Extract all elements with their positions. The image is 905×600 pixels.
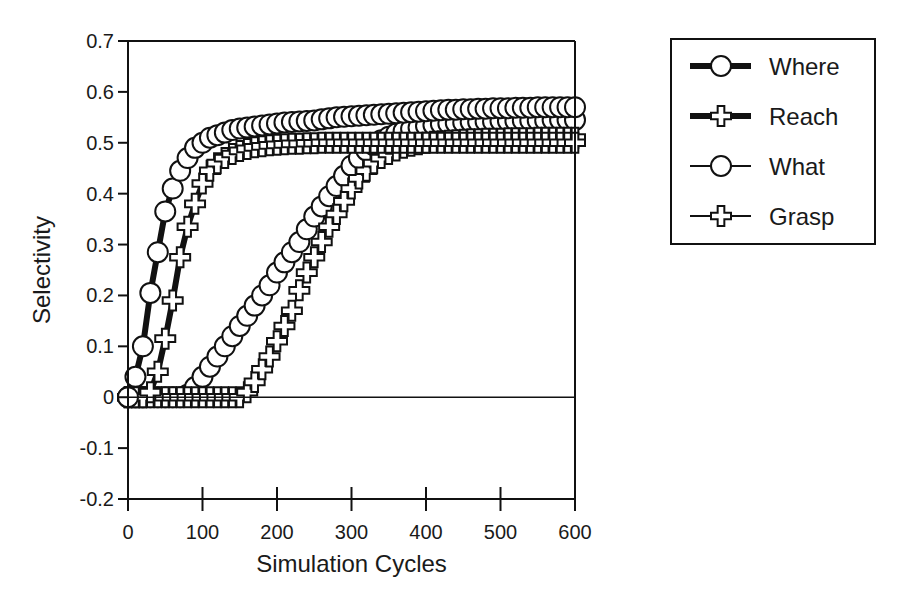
y-tick-label: 0.6 <box>86 81 114 103</box>
x-tick-label: 400 <box>409 521 442 543</box>
legend: WhereReachWhatGrasp <box>671 39 875 244</box>
legend-label-reach: Reach <box>769 103 838 130</box>
y-tick-label: 0.4 <box>86 183 114 205</box>
y-tick-label: 0 <box>103 386 114 408</box>
x-tick-label: 500 <box>484 521 517 543</box>
data-point-where <box>140 283 160 303</box>
x-tick-label: 600 <box>558 521 591 543</box>
y-tick-label: 0.1 <box>86 335 114 357</box>
legend-marker-what <box>711 156 731 176</box>
data-point-where <box>133 336 153 356</box>
legend-label-where: Where <box>769 53 840 80</box>
data-point-reach <box>163 291 183 311</box>
legend-marker-where <box>711 56 731 76</box>
data-point-reach <box>155 329 175 349</box>
x-tick-label: 0 <box>122 521 133 543</box>
data-point-where <box>148 242 168 262</box>
y-axis-title: Selectivity <box>28 216 55 324</box>
x-tick-label: 200 <box>260 521 293 543</box>
x-axis-title: Simulation Cycles <box>256 550 447 577</box>
data-point-where <box>155 201 175 221</box>
y-tick-label: 0.5 <box>86 132 114 154</box>
x-tick-label: 100 <box>186 521 219 543</box>
y-tick-label: 0.7 <box>86 30 114 52</box>
y-tick-label: -0.1 <box>80 437 114 459</box>
y-ticks: -0.2-0.100.10.20.30.40.50.60.7 <box>80 30 128 510</box>
data-point-reach <box>185 194 205 214</box>
data-point-reach <box>170 247 190 267</box>
x-tick-label: 300 <box>335 521 368 543</box>
data-point-reach <box>148 362 168 382</box>
y-tick-label: -0.2 <box>80 488 114 510</box>
legend-label-what: What <box>769 153 825 180</box>
y-tick-label: 0.2 <box>86 284 114 306</box>
legend-label-grasp: Grasp <box>769 203 834 230</box>
data-point-reach <box>178 217 198 237</box>
series-layer <box>118 97 585 407</box>
selectivity-chart: -0.2-0.100.10.20.30.40.50.60.7 010020030… <box>0 0 905 600</box>
x-ticks: 0100200300400500600 <box>122 487 591 543</box>
y-tick-label: 0.3 <box>86 234 114 256</box>
